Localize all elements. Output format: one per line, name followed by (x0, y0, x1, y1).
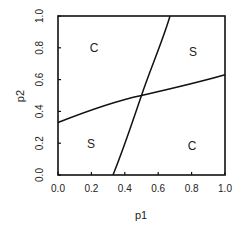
x-tick-label: 0.4 (118, 183, 132, 194)
y-tick-label: 0.2 (34, 136, 45, 150)
y-tick-label: 0.6 (34, 72, 45, 86)
x-tick-label: 0.2 (84, 183, 98, 194)
y-axis-label: p2 (14, 90, 26, 102)
curve-steep (113, 16, 170, 175)
y-tick-label: 0.8 (34, 40, 45, 54)
region-label-bottom-right: C (188, 139, 197, 153)
x-axis-label: p1 (135, 209, 147, 221)
x-tick-label: 1.0 (218, 183, 232, 194)
y-tick-label: 0.4 (34, 104, 45, 118)
region-label-bottom-left: S (87, 137, 95, 151)
chart: 0.0 0.2 0.4 0.6 0.8 1.0 0.0 0.2 0.4 0.6 … (0, 0, 242, 236)
region-label-top-right: S (189, 45, 197, 59)
x-tick-label: 0.0 (51, 183, 65, 194)
region-label-top-left: C (90, 41, 99, 55)
x-tick-label: 0.6 (151, 183, 165, 194)
y-tick-label: 1.0 (34, 9, 45, 23)
curve-shallow (58, 75, 225, 123)
x-tick-label: 0.8 (185, 183, 199, 194)
y-tick-label: 0.0 (34, 168, 45, 182)
